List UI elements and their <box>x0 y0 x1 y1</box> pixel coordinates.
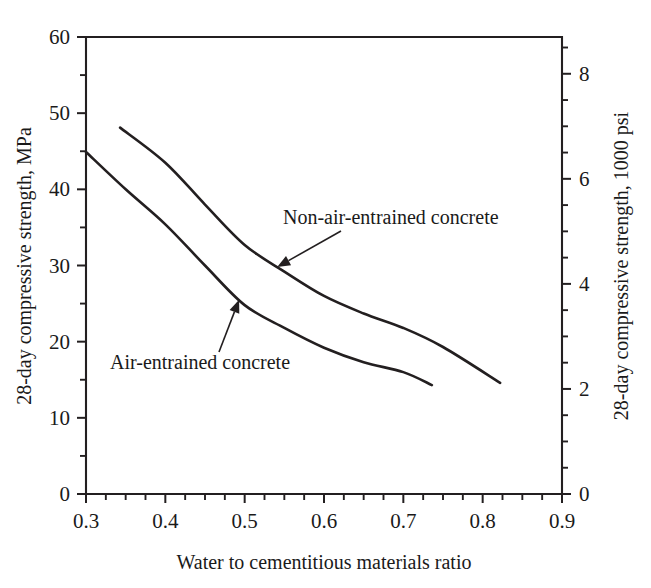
y2-tick-label: 2 <box>579 377 590 401</box>
x-axis-title: Water to cementitious materials ratio <box>177 551 472 573</box>
x-tick-label: 0.6 <box>311 509 337 533</box>
x-tick-label: 0.4 <box>152 509 179 533</box>
y2-tick-label: 8 <box>579 62 590 86</box>
y-tick-label: 50 <box>49 101 70 125</box>
compressive-strength-vs-water-cement-ratio-chart: 0.30.40.50.60.70.80.9 0102030405060 0246… <box>0 0 651 588</box>
series-label-air-entrained: Air-entrained concrete <box>110 351 290 373</box>
y2-tick-label: 0 <box>579 482 590 506</box>
y-tick-label: 60 <box>49 25 70 49</box>
x-tick-label: 0.5 <box>232 509 258 533</box>
y-tick-label: 30 <box>49 254 70 278</box>
y2-tick-label: 4 <box>579 272 590 296</box>
x-tick-label: 0.7 <box>390 509 416 533</box>
x-tick-label: 0.3 <box>73 509 99 533</box>
y2-axis-title: 28-day compressive strength, 1000 psi <box>610 111 633 420</box>
x-tick-label: 0.8 <box>470 509 496 533</box>
y-tick-label: 0 <box>60 482 71 506</box>
y-tick-label: 40 <box>49 177 70 201</box>
y-tick-label: 10 <box>49 406 70 430</box>
series-label-non-air-entrained: Non-air-entrained concrete <box>283 206 499 228</box>
y-axis-title: 28-day compressive strength, MPa <box>13 127 36 405</box>
chart-background <box>0 0 651 588</box>
y-tick-label: 20 <box>49 330 70 354</box>
y2-tick-label: 6 <box>579 167 590 191</box>
chart-figure: 0.30.40.50.60.70.80.9 0102030405060 0246… <box>0 0 651 588</box>
x-tick-label: 0.9 <box>549 509 575 533</box>
